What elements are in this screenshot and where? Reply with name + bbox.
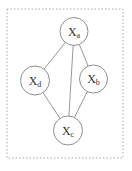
node-label-main-Xb: X bbox=[87, 72, 96, 86]
node-label-main-Xd: X bbox=[29, 74, 38, 88]
node-label-subscript-Xb: b bbox=[96, 78, 100, 87]
node-label-main-Xc: X bbox=[62, 124, 71, 138]
node-label-subscript-Xc: c bbox=[71, 130, 75, 139]
graph-figure: XaXdXbXc bbox=[0, 0, 132, 171]
node-label-main-Xa: X bbox=[68, 25, 77, 39]
graph-svg: XaXdXbXc bbox=[0, 0, 132, 171]
node-label-subscript-Xa: a bbox=[77, 31, 81, 40]
node-label-subscript-Xd: d bbox=[37, 80, 41, 89]
